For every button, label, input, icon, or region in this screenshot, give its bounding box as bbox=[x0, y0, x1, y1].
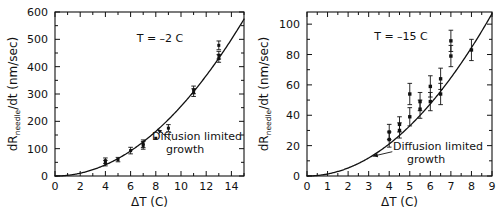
data-point bbox=[439, 77, 442, 80]
data-point bbox=[449, 39, 452, 42]
annotation-line-2: growth bbox=[166, 143, 204, 156]
y-tick-label: 500 bbox=[27, 33, 48, 46]
x-tick-label: 8 bbox=[152, 180, 159, 193]
x-tick-label: 1 bbox=[324, 180, 331, 193]
x-tick-label: 9 bbox=[489, 180, 496, 193]
data-point bbox=[470, 48, 473, 51]
y-tick-label: 0 bbox=[293, 170, 300, 183]
x-tick-label: 6 bbox=[427, 180, 434, 193]
data-point bbox=[217, 44, 220, 47]
y-axis-title-text: dRneedle/dt (nm/sec) bbox=[6, 37, 22, 152]
x-axis-title: ΔT (C) bbox=[131, 195, 168, 209]
data-point bbox=[117, 158, 120, 161]
data-point bbox=[192, 91, 195, 94]
y-axis-title-sub: needle bbox=[13, 109, 22, 135]
data-point bbox=[439, 92, 442, 95]
y-tick-label: 100 bbox=[279, 18, 300, 31]
y-axis-title-text: dRneedle/dt (nm/sec) bbox=[257, 37, 273, 152]
data-point bbox=[418, 107, 421, 110]
chart-panel-right: 0123456789020406080100ΔT (C)dRneedle/dt … bbox=[251, 0, 502, 220]
x-tick-label: 10 bbox=[174, 180, 188, 193]
y-tick-label: 20 bbox=[286, 140, 300, 153]
two-panel-figure: 024681012140100200300400500600ΔT (C)dRne… bbox=[0, 0, 502, 220]
x-tick-label: 14 bbox=[224, 180, 238, 193]
y-tick-label: 400 bbox=[27, 61, 48, 74]
data-point bbox=[388, 138, 391, 141]
y-axis-title: dRneedle/dt (nm/sec) bbox=[257, 37, 273, 152]
data-point bbox=[398, 129, 401, 132]
x-tick-label: 3 bbox=[365, 180, 372, 193]
left-plot-svg: 024681012140100200300400500600ΔT (C)dRne… bbox=[0, 0, 251, 220]
y-axis-title-sub: needle bbox=[264, 109, 273, 135]
x-tick-label: 7 bbox=[447, 180, 454, 193]
data-point bbox=[429, 85, 432, 88]
x-tick-label: 4 bbox=[386, 180, 393, 193]
y-tick-label: 200 bbox=[27, 115, 48, 128]
annotation-line-2: growth bbox=[407, 153, 445, 166]
data-point bbox=[217, 57, 220, 60]
x-tick-label: 4 bbox=[102, 180, 109, 193]
chart-panel-left: 024681012140100200300400500600ΔT (C)dRne… bbox=[0, 0, 251, 220]
x-axis-title: ΔT (C) bbox=[381, 195, 418, 209]
condition-label: T = –15 C bbox=[373, 30, 428, 43]
y-tick-label: 40 bbox=[286, 109, 300, 122]
y-axis-title-rest: /dt (nm/sec) bbox=[257, 37, 271, 110]
y-axis-title-main: dR bbox=[6, 135, 20, 151]
y-tick-label: 0 bbox=[41, 170, 48, 183]
y-tick-label: 100 bbox=[27, 143, 48, 156]
x-tick-label: 2 bbox=[77, 180, 84, 193]
y-tick-label: 60 bbox=[286, 79, 300, 92]
x-tick-label: 0 bbox=[304, 180, 311, 193]
data-point bbox=[129, 149, 132, 152]
data-point bbox=[429, 100, 432, 103]
y-tick-label: 80 bbox=[286, 49, 300, 62]
x-tick-label: 8 bbox=[468, 180, 475, 193]
x-tick-label: 2 bbox=[345, 180, 352, 193]
data-point bbox=[449, 54, 452, 57]
x-tick-label: 0 bbox=[52, 180, 59, 193]
condition-label: T = –2 C bbox=[136, 32, 184, 45]
x-tick-label: 12 bbox=[199, 180, 213, 193]
data-series bbox=[387, 30, 474, 147]
panel-right-root: 0123456789020406080100ΔT (C)dRneedle/dt … bbox=[257, 12, 496, 209]
y-tick-label: 600 bbox=[27, 6, 48, 19]
annotation-line-1: Diffusion limited bbox=[393, 140, 483, 153]
y-tick-label: 300 bbox=[27, 88, 48, 101]
y-axis-title-rest: /dt (nm/sec) bbox=[6, 37, 20, 110]
x-tick-label: 5 bbox=[406, 180, 413, 193]
y-axis-title: dRneedle/dt (nm/sec) bbox=[6, 37, 22, 152]
data-point bbox=[104, 162, 107, 165]
y-axis-title-main: dR bbox=[257, 135, 271, 151]
panel-left-root: 024681012140100200300400500600ΔT (C)dRne… bbox=[6, 6, 244, 209]
right-plot-svg: 0123456789020406080100ΔT (C)dRneedle/dt … bbox=[251, 0, 502, 220]
data-point bbox=[408, 92, 411, 95]
data-point bbox=[142, 144, 145, 147]
x-tick-label: 6 bbox=[127, 180, 134, 193]
y-axis: 0100200300400500600 bbox=[27, 6, 244, 183]
data-point bbox=[408, 115, 411, 118]
